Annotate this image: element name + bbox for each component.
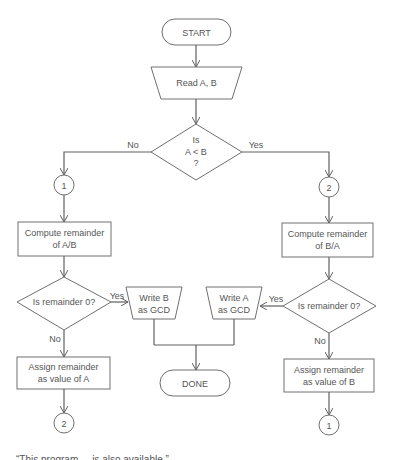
connector-2-top-label: 2 bbox=[326, 183, 331, 193]
connector-1-bottom-label: 1 bbox=[326, 421, 331, 431]
compute-a-mod-b: Compute remainder of A/B bbox=[18, 222, 111, 256]
decision-a-less-b: Is A < B ? bbox=[151, 124, 242, 180]
start-label: START bbox=[182, 28, 211, 38]
assign-remainder-to-b: Assign remainder as value of B bbox=[284, 359, 374, 392]
arrow-no-branch bbox=[64, 152, 151, 175]
read-label: Read A, B bbox=[176, 78, 217, 88]
branch-yes-label: Yes bbox=[249, 140, 264, 150]
decision-main-line2: A < B bbox=[185, 147, 207, 157]
decision-main-line3: ? bbox=[193, 158, 198, 168]
assign-right-line1: Assign remainder bbox=[294, 365, 364, 375]
decision-left-no-label: No bbox=[49, 334, 61, 344]
done-terminal: DONE bbox=[160, 370, 230, 396]
write-b-line2: as GCD bbox=[138, 305, 171, 315]
branch-no-label: No bbox=[127, 140, 139, 150]
decision-left-remainder-zero: Is remainder 0? bbox=[17, 277, 111, 330]
compute-left-line2: of A/B bbox=[52, 240, 76, 250]
compute-b-mod-a: Compute remainder of B/A bbox=[282, 223, 373, 257]
decision-right-yes-label: Yes bbox=[269, 294, 284, 304]
connector-2-top: 2 bbox=[319, 177, 339, 197]
connector-1-bottom: 1 bbox=[319, 415, 339, 435]
compute-left-line1: Compute remainder bbox=[25, 228, 105, 238]
assign-left-line1: Assign remainder bbox=[28, 362, 98, 372]
arrow-yes-branch bbox=[242, 152, 329, 177]
write-b-line1: Write B bbox=[139, 293, 168, 303]
connector-1-top: 1 bbox=[54, 175, 74, 195]
decision-right-remainder-zero: Is remainder 0? bbox=[283, 279, 376, 333]
write-a-line2: as GCD bbox=[218, 305, 251, 315]
done-label: DONE bbox=[182, 379, 208, 389]
connector-2-bottom: 2 bbox=[54, 413, 74, 433]
clipped-caption: “This program ... is also available.” bbox=[16, 453, 169, 460]
compute-right-line1: Compute remainder bbox=[288, 229, 368, 239]
write-a-line1: Write A bbox=[220, 293, 249, 303]
start-terminal: START bbox=[162, 19, 231, 45]
decision-left-yes-label: Yes bbox=[110, 291, 125, 301]
write-a-gcd: Write A as GCD bbox=[206, 287, 262, 319]
connector-2-bottom-label: 2 bbox=[61, 419, 66, 429]
connector-1-top-label: 1 bbox=[61, 181, 66, 191]
decision-left-label: Is remainder 0? bbox=[33, 297, 96, 307]
assign-remainder-to-a: Assign remainder as value of A bbox=[17, 357, 110, 389]
assign-right-line2: as value of B bbox=[303, 377, 355, 387]
decision-main-line1: Is bbox=[192, 135, 200, 145]
write-b-gcd: Write B as GCD bbox=[126, 287, 182, 319]
decision-right-no-label: No bbox=[314, 336, 326, 346]
compute-right-line2: of B/A bbox=[315, 241, 340, 251]
decision-right-label: Is remainder 0? bbox=[298, 301, 361, 311]
read-input-node: Read A, B bbox=[151, 67, 242, 99]
assign-left-line2: as value of A bbox=[38, 374, 90, 384]
gcd-flowchart: START Read A, B Is A < B ? No Yes 1 2 Co… bbox=[0, 0, 394, 460]
